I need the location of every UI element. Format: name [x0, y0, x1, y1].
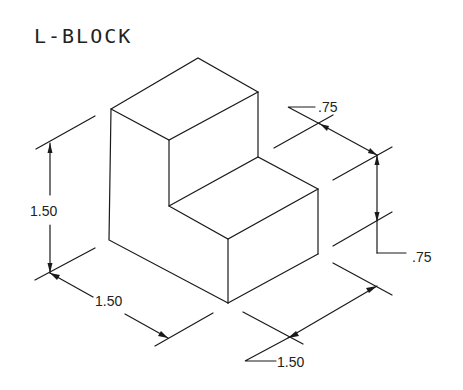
height-dimension: 1.50: [30, 116, 95, 280]
l-block-drawing: L-BLOCK 1.50 1.50: [0, 0, 463, 390]
width-label: 1.50: [277, 354, 304, 370]
depth-label: 1.50: [95, 293, 122, 309]
step-height-label: .75: [412, 249, 432, 265]
depth-dimension: 1.50: [50, 273, 213, 346]
height-label: 1.50: [30, 203, 57, 219]
upper-step-depth-label: .75: [318, 99, 338, 115]
l-block-solid: [109, 58, 318, 303]
drawing-title: L-BLOCK: [34, 24, 132, 48]
width-dimension: 1.50: [243, 263, 392, 370]
upper-step-depth-dimension: .75: [274, 99, 392, 180]
